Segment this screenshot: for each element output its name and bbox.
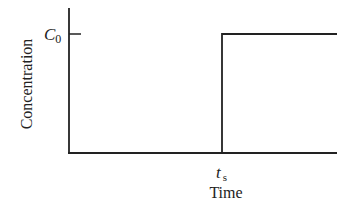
- x-axis-label: Time: [209, 184, 242, 201]
- y-tick-label: C0: [44, 25, 61, 46]
- step-line: [222, 34, 337, 153]
- x-tick-label: ts: [216, 163, 227, 183]
- step-chart: C0 ts Time Concentration: [0, 0, 353, 212]
- y-axis-label: Concentration: [18, 39, 35, 130]
